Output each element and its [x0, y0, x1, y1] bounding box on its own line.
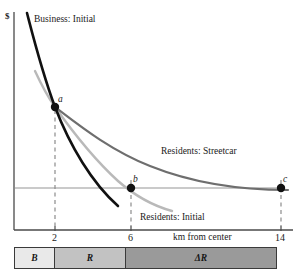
point-label-b: b	[133, 174, 138, 184]
annotation-residents-streetcar: Residents: Streetcar	[161, 146, 237, 156]
x-tick-label-14: 14	[275, 232, 285, 243]
land-use-segment-residential: R	[55, 248, 126, 268]
annotation-residents-initial: Residents: Initial	[140, 212, 205, 222]
curve-business-initial	[27, 13, 118, 206]
land-use-segment-delta-residential: ΔR	[126, 248, 276, 268]
data-point-a	[51, 103, 59, 111]
land-use-segment-business: B	[15, 248, 55, 268]
bid-rent-chart-figure: $ km from center 2 6 14 Business: Initia…	[0, 0, 299, 276]
land-use-segment-delta-residential-label: ΔR	[195, 253, 207, 263]
data-point-b	[127, 184, 135, 192]
land-use-bar: B R ΔR	[14, 247, 277, 269]
data-point-c	[277, 184, 285, 192]
x-tick-label-6: 6	[128, 232, 133, 243]
chart-plot-area	[0, 0, 299, 276]
annotation-business-initial: Business: Initial	[34, 14, 96, 24]
land-use-segment-residential-label: R	[87, 253, 93, 263]
x-tick-label-2: 2	[52, 232, 57, 243]
y-axis-label: $	[5, 11, 10, 21]
point-label-c: c	[283, 174, 287, 184]
x-axis-label: km from center	[173, 232, 232, 242]
point-label-a: a	[58, 94, 63, 104]
land-use-segment-business-label: B	[31, 253, 37, 263]
